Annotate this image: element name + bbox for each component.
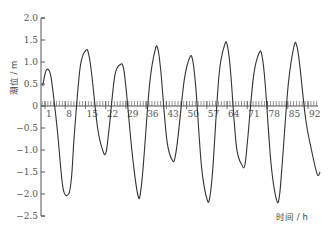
y-axis: 2.01.51.00.50−0.5−1.0−1.5−2.0−2.5 <box>16 13 45 221</box>
x-tick-label: 8 <box>66 109 72 119</box>
x-tick-label: 43 <box>167 109 179 119</box>
x-axis-title: 时间 / h <box>276 212 308 222</box>
x-tick-label: 92 <box>309 109 320 119</box>
y-tick-label: 2.0 <box>24 13 39 23</box>
y-tick-label: −2.0 <box>16 189 38 199</box>
y-tick-label: 1.0 <box>24 57 39 67</box>
x-tick-label: 85 <box>289 109 301 119</box>
y-tick-label: −2.5 <box>16 211 38 221</box>
y-tick-label: 1.5 <box>24 35 39 45</box>
x-tick-label: 36 <box>147 109 159 119</box>
y-tick-label: −1.5 <box>16 167 38 177</box>
x-tick-label: 1 <box>46 109 52 119</box>
x-tick-label: 22 <box>107 109 118 119</box>
x-tick-label: 78 <box>269 109 281 119</box>
y-tick-label: 0.5 <box>24 79 39 89</box>
x-tick-label: 57 <box>208 109 220 119</box>
y-tick-label: 0 <box>32 101 38 111</box>
y-tick-label: −0.5 <box>16 123 38 133</box>
tide-level-chart: 2.01.51.00.50−0.5−1.0−1.5−2.0−2.5 181522… <box>0 0 332 235</box>
y-tick-label: −1.0 <box>16 145 38 155</box>
y-axis-title: 潮位 / m <box>9 61 19 96</box>
tide-level-line <box>43 42 320 203</box>
